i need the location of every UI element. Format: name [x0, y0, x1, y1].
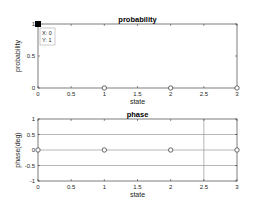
- data-point-marker[interactable]: [168, 148, 172, 152]
- x-tick-label: 2: [169, 184, 173, 190]
- x-tick-label: 3: [235, 91, 239, 97]
- x-tick-label: 0: [36, 184, 40, 190]
- x-tick-label: 2: [169, 91, 173, 97]
- x-tick-label: 0.5: [67, 91, 76, 97]
- x-tick-label: 2.5: [200, 184, 209, 190]
- phase-xlabel: state: [130, 191, 145, 198]
- y-tick-label: -1: [30, 178, 36, 184]
- y-tick-label: 0: [32, 85, 36, 91]
- phase-axes[interactable]: 00.511.522.53-1-0.500.51phasestatephase(…: [14, 110, 239, 198]
- y-tick-label: 0.5: [27, 53, 36, 59]
- phase-ylabel: phase(deg): [14, 132, 22, 167]
- datatip-x: X: 0: [42, 30, 52, 36]
- figure: 00.511.522.5300.51probabilitystateprobab…: [0, 0, 260, 216]
- data-point-marker[interactable]: [102, 86, 106, 90]
- phase-title: phase: [127, 110, 149, 119]
- datatip-marker[interactable]: [35, 21, 41, 27]
- x-tick-label: 0.5: [67, 184, 76, 190]
- probability-axes[interactable]: 00.511.522.5300.51probabilitystateprobab…: [14, 15, 239, 105]
- y-tick-label: -0.5: [25, 163, 36, 169]
- y-tick-label: 0: [32, 147, 36, 153]
- x-tick-label: 2.5: [200, 91, 209, 97]
- datatip[interactable]: X: 0Y: 1: [40, 28, 55, 45]
- x-tick-label: 1: [103, 91, 107, 97]
- x-tick-label: 1: [103, 184, 107, 190]
- y-tick-label: 0.5: [27, 132, 36, 138]
- data-point-marker[interactable]: [235, 86, 239, 90]
- prob-xlabel: state: [130, 98, 145, 105]
- data-point-marker[interactable]: [235, 148, 239, 152]
- data-point-marker[interactable]: [36, 148, 40, 152]
- x-tick-label: 3: [235, 184, 239, 190]
- data-point-marker[interactable]: [102, 148, 106, 152]
- prob-title: probability: [118, 15, 157, 24]
- prob-ylabel: probability: [14, 40, 22, 72]
- x-tick-label: 1.5: [133, 184, 142, 190]
- x-tick-label: 1.5: [133, 91, 142, 97]
- datatip-y: Y: 1: [42, 37, 51, 43]
- y-tick-label: 1: [32, 116, 36, 122]
- x-tick-label: 0: [36, 91, 40, 97]
- data-point-marker[interactable]: [168, 86, 172, 90]
- prob-plot-area[interactable]: [38, 24, 237, 88]
